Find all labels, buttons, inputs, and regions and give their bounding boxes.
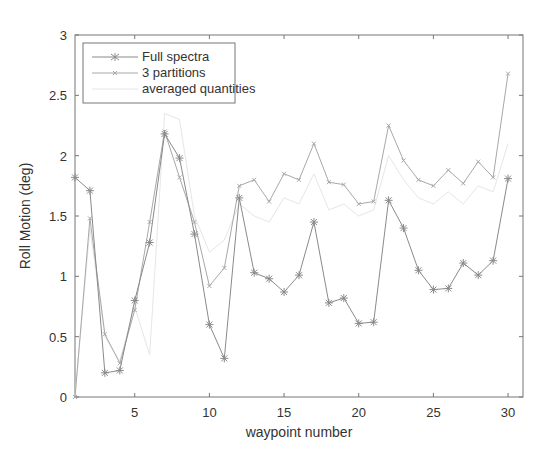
star-marker xyxy=(101,369,109,377)
star-marker xyxy=(385,196,393,204)
star-marker xyxy=(489,257,497,265)
star-marker xyxy=(280,288,288,296)
x-axis-label: waypoint number xyxy=(245,424,353,440)
star-marker xyxy=(190,230,198,238)
legend-entry: 3 partitions xyxy=(142,65,206,80)
star-marker xyxy=(414,266,422,274)
x-tick-label: 20 xyxy=(351,405,365,420)
x-tick-label: 5 xyxy=(131,405,138,420)
y-tick-label: 0.5 xyxy=(49,330,67,345)
star-marker xyxy=(265,275,273,283)
x-tick-label: 10 xyxy=(202,405,216,420)
star-marker xyxy=(474,271,482,279)
line-chart: 00.511.522.5351015202530waypoint numberR… xyxy=(0,0,550,468)
star-marker xyxy=(116,366,124,374)
star-marker xyxy=(71,173,79,181)
star-marker xyxy=(459,259,467,267)
star-marker xyxy=(250,269,258,277)
x-tick-label: 30 xyxy=(501,405,515,420)
y-tick-label: 0 xyxy=(60,390,67,405)
star-marker xyxy=(429,286,437,294)
y-tick-label: 2 xyxy=(60,149,67,164)
x-tick-label: 25 xyxy=(426,405,440,420)
star-marker xyxy=(504,175,512,183)
legend-entry: Full spectra xyxy=(142,49,210,64)
legend: Full spectra3 partitionsaveraged quantit… xyxy=(83,43,256,103)
star-marker xyxy=(131,296,139,304)
star-marker xyxy=(295,271,303,279)
star-marker xyxy=(325,299,333,307)
star-marker xyxy=(235,194,243,202)
y-tick-label: 3 xyxy=(60,28,67,43)
star-marker xyxy=(370,318,378,326)
y-axis-label: Roll Motion (deg) xyxy=(17,163,33,270)
star-marker xyxy=(355,319,363,327)
star-marker xyxy=(340,294,348,302)
x-tick-label: 15 xyxy=(277,405,291,420)
star-marker xyxy=(161,130,169,138)
star-marker xyxy=(205,321,213,329)
star-marker xyxy=(86,187,94,195)
y-tick-label: 1 xyxy=(60,269,67,284)
star-marker xyxy=(176,154,184,162)
star-marker xyxy=(146,239,154,247)
star-marker xyxy=(444,284,452,292)
y-tick-label: 2.5 xyxy=(49,88,67,103)
star-marker xyxy=(310,218,318,226)
star-marker xyxy=(400,224,408,232)
legend-entry: averaged quantities xyxy=(142,81,256,96)
star-marker xyxy=(220,354,228,362)
y-tick-label: 1.5 xyxy=(49,209,67,224)
